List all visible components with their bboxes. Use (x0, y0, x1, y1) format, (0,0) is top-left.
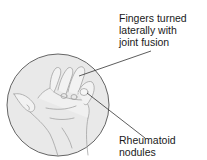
rheumatoid-hand-diagram: Fingers turned laterally with joint fusi… (0, 0, 207, 160)
callout-text-line: laterally with (119, 24, 187, 36)
nodules-callout-label: Rheumatoid nodules (119, 134, 176, 158)
fingers-leader-line (79, 51, 151, 76)
callout-text-line: Rheumatoid (119, 134, 176, 146)
callout-text-line: joint fusion (119, 36, 187, 48)
callout-text-line: nodules (119, 146, 176, 158)
fingers-callout-label: Fingers turned laterally with joint fusi… (119, 12, 187, 48)
callout-text-line: Fingers turned (119, 12, 187, 24)
